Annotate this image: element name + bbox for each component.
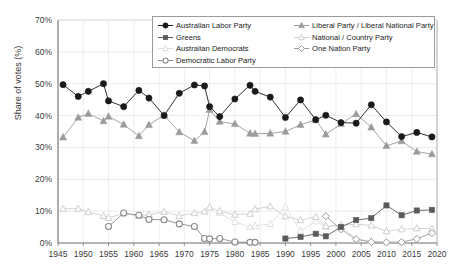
marker-triangle-open bbox=[232, 218, 239, 224]
legend-item[interactable]: Australian Labor Party bbox=[157, 20, 256, 32]
marker-circle-filled bbox=[121, 104, 127, 110]
marker-triangle-open bbox=[413, 225, 420, 231]
legend-column-1: Liberal Party / Liberal National PartyNa… bbox=[293, 20, 434, 55]
x-tick-label: 2000 bbox=[326, 249, 345, 259]
marker-circle-open bbox=[207, 236, 213, 242]
marker-circle-filled bbox=[383, 119, 389, 125]
marker-circle-filled bbox=[146, 95, 152, 101]
x-tick-label: 1955 bbox=[99, 249, 118, 259]
marker-square-filled bbox=[414, 208, 419, 213]
marker-circle-filled bbox=[217, 113, 223, 119]
marker-circle-open bbox=[163, 58, 168, 63]
marker-square-filled bbox=[399, 213, 404, 218]
marker-triangle-filled bbox=[413, 148, 420, 155]
marker-circle-open bbox=[191, 223, 197, 229]
y-tick-label: 0% bbox=[40, 238, 53, 248]
marker-circle-filled bbox=[399, 133, 405, 139]
legend-marker-icon bbox=[293, 32, 310, 43]
y-tick-label: 20% bbox=[35, 174, 52, 184]
x-tick-label: 2015 bbox=[402, 249, 421, 259]
marker-triangle-open bbox=[75, 205, 82, 211]
legend-item[interactable]: One Nation Party bbox=[293, 43, 434, 55]
marker-circle-filled bbox=[282, 114, 288, 120]
marker-circle-filled bbox=[136, 87, 142, 93]
legend-item[interactable]: Liberal Party / Liberal National Party bbox=[293, 20, 434, 32]
legend-column-0: Australian Labor PartyGreensAustralian D… bbox=[157, 20, 256, 66]
marker-diamond-open bbox=[368, 238, 375, 245]
marker-circle-filled bbox=[252, 88, 258, 94]
legend-item[interactable]: Australian Democrats bbox=[157, 43, 256, 55]
legend-marker-icon bbox=[157, 20, 174, 31]
x-tick-label: 1965 bbox=[150, 249, 169, 259]
legend-item[interactable]: Democratic Labor Party bbox=[157, 55, 256, 67]
marker-triangle-filled bbox=[145, 121, 152, 128]
marker-diamond-open bbox=[413, 235, 420, 242]
marker-circle-open bbox=[232, 239, 238, 245]
x-tick-label: 1980 bbox=[225, 249, 244, 259]
marker-circle-open bbox=[146, 216, 152, 222]
marker-triangle-filled bbox=[201, 128, 208, 135]
marker-triangle-filled bbox=[282, 128, 289, 135]
marker-triangle-open bbox=[267, 203, 274, 209]
marker-circle-open bbox=[161, 217, 167, 223]
marker-triangle-filled bbox=[85, 110, 92, 117]
marker-triangle-open bbox=[282, 203, 289, 209]
legend-marker-icon bbox=[293, 20, 310, 31]
marker-circle-filled bbox=[161, 112, 167, 118]
marker-circle-filled bbox=[323, 112, 329, 118]
marker-circle-filled bbox=[176, 90, 182, 96]
x-tick-label: 1960 bbox=[124, 249, 143, 259]
marker-triangle-open bbox=[299, 34, 305, 39]
marker-square-filled bbox=[429, 207, 434, 212]
legend-label: Liberal Party / Liberal National Party bbox=[312, 20, 434, 32]
legend-label: One Nation Party bbox=[312, 43, 370, 55]
legend-marker-icon bbox=[157, 55, 174, 66]
y-tick-label: 60% bbox=[35, 47, 52, 57]
marker-circle-filled bbox=[414, 129, 420, 135]
y-tick-label: 10% bbox=[35, 206, 52, 216]
marker-circle-filled bbox=[207, 104, 213, 110]
marker-circle-filled bbox=[267, 94, 273, 100]
x-tick-label: 2010 bbox=[377, 249, 396, 259]
marker-circle-open bbox=[176, 221, 182, 227]
marker-triangle-open bbox=[60, 205, 67, 211]
marker-triangle-open bbox=[297, 227, 304, 233]
legend-marker-icon bbox=[157, 43, 174, 54]
marker-triangle-open bbox=[206, 204, 213, 210]
marker-circle-filled bbox=[105, 98, 111, 104]
series-australian-labor-party bbox=[60, 81, 435, 140]
marker-square-filled bbox=[323, 234, 328, 239]
legend-item[interactable]: Greens bbox=[157, 32, 256, 44]
marker-circle-filled bbox=[338, 119, 344, 125]
x-tick-label: 2020 bbox=[428, 249, 447, 259]
marker-triangle-filled bbox=[368, 124, 375, 131]
legend-item[interactable]: National / Country Party bbox=[293, 32, 434, 44]
x-tick-label: 1945 bbox=[49, 249, 68, 259]
y-tick-label: 70% bbox=[35, 15, 52, 25]
marker-square-filled bbox=[283, 236, 288, 241]
marker-square-filled bbox=[369, 216, 374, 221]
marker-circle-filled bbox=[353, 120, 359, 126]
marker-triangle-filled bbox=[105, 113, 112, 120]
legend-label: Democratic Labor Party bbox=[176, 55, 256, 67]
marker-square-filled bbox=[384, 203, 389, 208]
marker-circle-filled bbox=[191, 82, 197, 88]
marker-square-filled bbox=[298, 234, 303, 239]
chart-legend: Australian Labor PartyGreensAustralian D… bbox=[152, 16, 435, 68]
y-tick-label: 30% bbox=[35, 142, 52, 152]
marker-circle-filled bbox=[368, 102, 374, 108]
marker-circle-filled bbox=[163, 23, 168, 28]
legend-label: Greens bbox=[176, 32, 201, 44]
marker-circle-filled bbox=[429, 134, 435, 140]
marker-circle-filled bbox=[75, 93, 81, 99]
marker-circle-filled bbox=[85, 88, 91, 94]
chart-container: 0%10%20%30%40%50%60%70%19451950195519601… bbox=[0, 0, 467, 271]
marker-triangle-open bbox=[282, 213, 289, 219]
legend-marker-icon bbox=[293, 43, 310, 54]
marker-circle-open bbox=[252, 239, 258, 245]
legend-label: Australian Democrats bbox=[176, 43, 249, 55]
x-tick-label: 1995 bbox=[301, 249, 320, 259]
x-tick-label: 1985 bbox=[251, 249, 270, 259]
legend-label: National / Country Party bbox=[312, 32, 393, 44]
marker-circle-filled bbox=[232, 96, 238, 102]
